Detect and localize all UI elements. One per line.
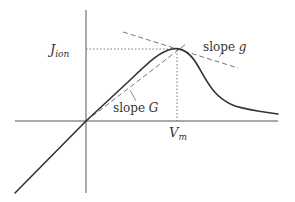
slope-G-leader (130, 90, 136, 101)
slope-g-label: slope g (203, 40, 247, 54)
slope-G-label: slope G (113, 101, 159, 115)
v-m-label: Vm (169, 125, 187, 142)
iv-diagram: Jion Vm slope G slope g (0, 0, 295, 202)
j-ion-label: Jion (47, 42, 70, 59)
